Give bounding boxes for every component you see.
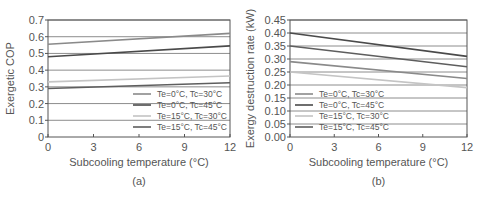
x-tick-label: 9	[181, 141, 187, 153]
y-tick-label: 0.40	[265, 27, 286, 39]
y-tick-label: 0.35	[265, 40, 286, 52]
x-tick-label: 0	[287, 141, 293, 153]
series-line	[290, 33, 467, 56]
legend-label: Te=0°C, Tc=30°C	[157, 89, 222, 99]
chart-panel-a: 00.10.20.30.40.50.60.7036912Te=0°C, Tc=3…	[4, 14, 236, 187]
x-tick-label: 9	[420, 141, 426, 153]
y-tick-label: 0	[38, 131, 44, 143]
figure: 00.10.20.30.40.50.60.7036912Te=0°C, Tc=3…	[0, 0, 482, 200]
y-axis-label: Exergetic COP	[4, 42, 16, 115]
legend-label: Te=15°C, Tc=45°C	[319, 122, 389, 132]
series-line	[48, 76, 230, 82]
y-tick-label: 0.45	[265, 14, 286, 26]
x-tick-label: 3	[331, 141, 337, 153]
legend-label: Te=15°C, Tc=45°C	[157, 122, 227, 132]
y-tick-label: 0.25	[265, 66, 286, 78]
x-tick-label: 3	[90, 141, 96, 153]
x-tick-label: 12	[461, 141, 473, 153]
y-tick-label: 0.1	[29, 114, 44, 126]
y-tick-label: 0.6	[29, 31, 44, 43]
series-line	[48, 83, 230, 89]
legend-label: Te=15°C, Tc=30°C	[319, 111, 389, 121]
series-lines	[290, 33, 467, 88]
legend-label: Te=15°C, Tc=30°C	[157, 111, 227, 121]
series-line	[48, 46, 230, 57]
panel-caption: (b)	[372, 175, 385, 187]
legend-label: Te=0°C, Tc=45°C	[319, 100, 384, 110]
series-lines	[48, 33, 230, 88]
x-axis-label: Subcooling temperature (°C)	[69, 156, 209, 168]
y-tick-label: 0.20	[265, 79, 286, 91]
x-axis-label: Subcooling temperature (°C)	[309, 156, 449, 168]
y-tick-label: 0.7	[29, 14, 44, 26]
y-tick-label: 0.30	[265, 53, 286, 65]
series-line	[48, 33, 230, 44]
y-axis-label: Exergy destruction rate (kW)	[244, 9, 256, 148]
y-tick-label: 0.00	[265, 131, 286, 143]
y-tick-label: 0.2	[29, 98, 44, 110]
y-axis: 0.000.050.100.150.200.250.300.350.400.45	[265, 14, 290, 143]
x-tick-label: 0	[45, 141, 51, 153]
y-tick-label: 0.5	[29, 47, 44, 59]
x-tick-label: 6	[136, 141, 142, 153]
y-axis: 00.10.20.30.40.50.60.7	[29, 14, 48, 143]
y-tick-label: 0.10	[265, 105, 286, 117]
legend: Te=0°C, Tc=30°CTe=0°C, Tc=45°CTe=15°C, T…	[133, 89, 227, 132]
x-tick-label: 12	[224, 141, 236, 153]
panel-caption: (a)	[132, 175, 145, 187]
y-tick-label: 0.4	[29, 64, 44, 76]
y-tick-label: 0.3	[29, 81, 44, 93]
y-tick-label: 0.05	[265, 118, 286, 130]
chart-panel-b: 0.000.050.100.150.200.250.300.350.400.45…	[244, 9, 473, 187]
y-tick-label: 0.15	[265, 92, 286, 104]
legend-label: Te=0°C, Tc=45°C	[157, 100, 222, 110]
x-tick-label: 6	[375, 141, 381, 153]
legend-label: Te=0°C, Tc=30°C	[319, 89, 384, 99]
legend: Te=0°C, Tc=30°CTe=0°C, Tc=45°CTe=15°C, T…	[295, 89, 389, 132]
